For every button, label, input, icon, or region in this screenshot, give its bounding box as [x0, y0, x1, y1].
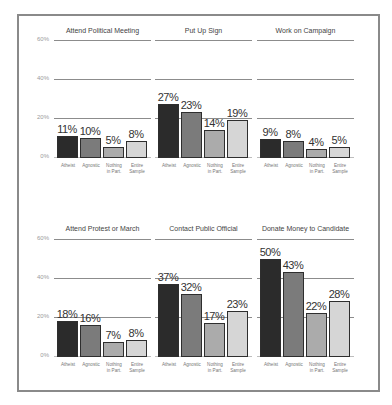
value-label: 43%: [280, 259, 306, 271]
x-category-label: EntireSample: [125, 163, 149, 174]
x-label-line: in Part.: [203, 169, 227, 175]
x-label-line: Sample: [226, 169, 250, 175]
value-label: 28%: [326, 288, 352, 300]
gridline: [155, 40, 252, 41]
x-label-line: Atheist: [157, 163, 181, 169]
value-label: 8%: [123, 128, 149, 140]
y-tick-label: 60%: [19, 36, 49, 42]
x-label-line: in Part.: [102, 368, 126, 374]
x-category-label: EntireSample: [226, 362, 250, 373]
x-label-line: Atheist: [157, 362, 181, 368]
value-label: 22%: [303, 300, 329, 312]
bar-nothing: [103, 342, 124, 357]
gridline: [257, 239, 354, 240]
bar-agnostic: [181, 294, 202, 357]
gridline: [155, 79, 252, 80]
bar-agnostic: [283, 141, 304, 158]
bar-atheist: [57, 321, 78, 357]
gridline: [54, 79, 151, 80]
bar-agnostic: [283, 272, 304, 357]
x-category-label: Agnostic: [180, 362, 204, 368]
gridline: [54, 239, 151, 240]
x-label-line: Atheist: [56, 362, 80, 368]
x-category-label: Nothingin Part.: [305, 362, 329, 373]
bar-entire: [227, 311, 248, 357]
gridline: [257, 79, 354, 80]
x-category-label: Agnostic: [180, 163, 204, 169]
bar-nothing: [306, 149, 327, 158]
bar-entire: [329, 147, 350, 158]
y-tick-label: 0%: [19, 153, 49, 159]
x-label-line: Sample: [125, 169, 149, 175]
x-label-line: Sample: [226, 368, 250, 374]
x-label-line: in Part.: [305, 368, 329, 374]
x-label-line: Agnostic: [180, 362, 204, 368]
x-category-label: Atheist: [259, 362, 283, 368]
gridline: [54, 40, 151, 41]
x-category-label: EntireSample: [328, 362, 352, 373]
x-category-label: Nothingin Part.: [203, 163, 227, 174]
value-label: 5%: [326, 134, 352, 146]
x-label-line: Agnostic: [79, 163, 103, 169]
x-label-line: Atheist: [259, 163, 283, 169]
x-category-label: Agnostic: [79, 362, 103, 368]
bar-nothing: [103, 147, 124, 158]
x-label-line: in Part.: [102, 169, 126, 175]
gridline: [155, 239, 252, 240]
x-label-line: Agnostic: [180, 163, 204, 169]
panel-title: Work on Campaign: [257, 27, 354, 34]
x-label-line: Sample: [125, 368, 149, 374]
bar-entire: [126, 340, 147, 357]
gridline: [257, 40, 354, 41]
x-category-label: Nothingin Part.: [102, 163, 126, 174]
value-label: 23%: [178, 99, 204, 111]
value-label: 19%: [224, 107, 250, 119]
x-category-label: Nothingin Part.: [305, 163, 329, 174]
x-category-label: Nothingin Part.: [203, 362, 227, 373]
x-category-label: Atheist: [157, 362, 181, 368]
y-tick-label: 20%: [19, 313, 49, 319]
x-label-line: Agnostic: [282, 163, 306, 169]
x-label-line: Atheist: [259, 362, 283, 368]
bar-atheist: [57, 136, 78, 158]
x-label-line: in Part.: [203, 368, 227, 374]
y-tick-label: 40%: [19, 274, 49, 280]
bar-nothing: [204, 323, 225, 357]
bar-entire: [227, 120, 248, 158]
x-category-label: Nothingin Part.: [102, 362, 126, 373]
panel-title: Contact Public Official: [155, 225, 252, 232]
panel-title: Put Up Sign: [155, 27, 252, 34]
gridline: [54, 118, 151, 119]
value-label: 17%: [201, 310, 227, 322]
bar-atheist: [158, 284, 179, 357]
x-category-label: Atheist: [259, 163, 283, 169]
panel-title: Attend Political Meeting: [54, 27, 151, 34]
x-category-label: EntireSample: [328, 163, 352, 174]
bar-nothing: [306, 313, 327, 357]
y-tick-label: 60%: [19, 235, 49, 241]
x-label-line: Sample: [328, 368, 352, 374]
y-tick-label: 40%: [19, 75, 49, 81]
bar-nothing: [204, 130, 225, 158]
bar-atheist: [260, 139, 281, 158]
x-category-label: Agnostic: [79, 163, 103, 169]
bar-agnostic: [80, 325, 101, 357]
panel-title: Attend Protest or March: [54, 225, 151, 232]
bar-entire: [126, 141, 147, 158]
value-label: 23%: [224, 298, 250, 310]
gridline: [54, 278, 151, 279]
gridline: [257, 118, 354, 119]
bar-agnostic: [181, 112, 202, 158]
x-label-line: Agnostic: [79, 362, 103, 368]
x-label-line: Agnostic: [282, 362, 306, 368]
x-category-label: Atheist: [56, 163, 80, 169]
value-label: 8%: [123, 327, 149, 339]
bar-atheist: [158, 104, 179, 158]
y-tick-label: 20%: [19, 114, 49, 120]
value-label: 32%: [178, 281, 204, 293]
panel-title: Donate Money to Candidate: [257, 225, 354, 232]
x-category-label: Agnostic: [282, 362, 306, 368]
bar-entire: [329, 301, 350, 357]
bar-agnostic: [80, 138, 101, 159]
value-label: 50%: [257, 246, 283, 258]
